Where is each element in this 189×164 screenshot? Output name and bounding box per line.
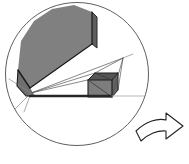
large-gray-wedge-side-face [92, 12, 97, 48]
figure-root: Geometric solid in circular frame with r… [0, 0, 189, 164]
geometry-illustration-svg: Geometric solid in circular frame with r… [0, 0, 189, 164]
